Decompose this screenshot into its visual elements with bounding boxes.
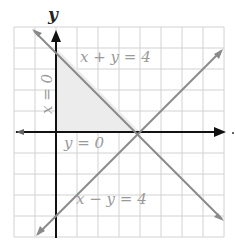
y-axis-arrow-icon (51, 30, 61, 42)
equation-y-0: y = 0 (64, 134, 104, 152)
equation-x-plus-y-4: x + y = 4 (80, 48, 151, 66)
equation-x-0: x = 0 (38, 74, 56, 114)
arrow-icon (32, 29, 42, 37)
axis-end-dot (232, 132, 234, 134)
arrow-icon (214, 213, 224, 221)
equation-x-minus-y-4: x − y = 4 (76, 190, 147, 208)
y-axis-label: y (48, 4, 58, 24)
x-axis-left-arrow-icon (16, 129, 24, 135)
